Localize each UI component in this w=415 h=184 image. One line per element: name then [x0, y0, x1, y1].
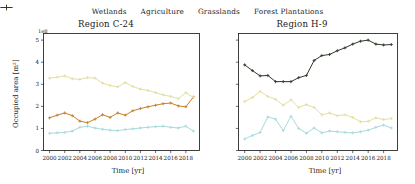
y-tick-label: 0	[35, 148, 39, 154]
series-wetlands	[48, 125, 195, 135]
data-point-marker	[162, 125, 165, 128]
x-tick-label: 2006	[88, 155, 103, 161]
data-point-marker	[139, 107, 142, 110]
data-point-marker	[86, 76, 89, 79]
data-point-marker	[139, 88, 142, 91]
x-tick-label: 2012	[133, 155, 148, 161]
series-forest-plantations	[243, 39, 393, 84]
data-point-marker	[48, 132, 51, 135]
data-point-marker	[56, 114, 59, 117]
x-tick-label: 2002	[253, 155, 268, 161]
data-point-marker	[56, 76, 59, 79]
data-point-marker	[359, 130, 362, 133]
x-tick-label: 2004	[73, 155, 88, 161]
data-point-marker	[336, 114, 339, 117]
x-tick-label: 2006	[284, 155, 299, 161]
data-point-marker	[177, 104, 180, 107]
data-point-marker	[177, 126, 180, 129]
data-point-marker	[351, 131, 354, 134]
data-point-marker	[305, 103, 308, 106]
panel-right: 2000200220042006200820102012201420162018	[236, 34, 398, 162]
data-point-marker	[382, 124, 385, 127]
data-point-marker	[139, 126, 142, 129]
data-point-marker	[48, 77, 51, 80]
series-grasslands	[48, 74, 195, 100]
y-tick-label: 2	[35, 103, 39, 109]
data-point-marker	[169, 95, 172, 98]
data-point-marker	[154, 91, 157, 94]
data-point-marker	[344, 113, 347, 116]
data-point-marker	[374, 116, 377, 119]
data-point-marker	[131, 127, 134, 130]
data-point-marker	[328, 130, 331, 133]
plot-frame	[239, 34, 398, 151]
data-point-marker	[344, 131, 347, 134]
data-point-marker	[116, 129, 119, 132]
data-point-marker	[169, 102, 172, 105]
data-point-marker	[390, 117, 393, 120]
series-line	[245, 116, 392, 139]
data-point-marker	[109, 84, 112, 87]
data-point-marker	[71, 77, 74, 80]
data-point-marker	[328, 111, 331, 114]
x-tick-label: 2000	[238, 155, 253, 161]
x-tick-label: 2016	[361, 155, 376, 161]
data-point-marker	[390, 126, 393, 129]
data-point-marker	[359, 40, 362, 43]
data-point-marker	[78, 78, 81, 81]
y-tick-label: 1	[35, 125, 39, 131]
data-point-marker	[154, 104, 157, 107]
x-tick-label: 2018	[376, 155, 391, 161]
x-tick-label: 2002	[58, 155, 73, 161]
x-tick-label: 2008	[299, 155, 314, 161]
data-point-marker	[251, 134, 254, 137]
data-point-marker	[86, 125, 89, 128]
x-tick-label: 2000	[42, 155, 57, 161]
data-point-marker	[63, 131, 66, 134]
data-point-marker	[147, 126, 150, 129]
data-point-marker	[124, 128, 127, 131]
data-point-marker	[382, 118, 385, 121]
data-point-marker	[48, 116, 51, 119]
x-tick-label: 2008	[103, 155, 118, 161]
data-point-marker	[243, 138, 246, 141]
x-tick-label: 2014	[148, 155, 163, 161]
x-tick-label: 2012	[330, 155, 345, 161]
x-tick-label: 2016	[164, 155, 179, 161]
data-point-marker	[390, 43, 393, 46]
plot-frame	[44, 34, 200, 151]
x-tick-label: 2004	[268, 155, 283, 161]
data-point-marker	[162, 93, 165, 96]
x-tick-label: 2014	[346, 155, 361, 161]
data-point-marker	[374, 126, 377, 129]
data-point-marker	[63, 74, 66, 77]
data-point-marker	[367, 120, 370, 123]
data-point-marker	[336, 130, 339, 133]
y-tick-label: 4	[35, 59, 39, 65]
x-tick-label: 2010	[118, 155, 133, 161]
data-point-marker	[109, 129, 112, 132]
data-point-marker	[154, 125, 157, 128]
series-line	[50, 97, 194, 123]
y-tick-label: 5	[35, 37, 39, 43]
data-point-marker	[147, 105, 150, 108]
x-tick-label: 2018	[179, 155, 194, 161]
x-tick-label: 2010	[315, 155, 330, 161]
data-point-marker	[63, 111, 66, 114]
series-grasslands	[243, 90, 393, 123]
y-tick-label: 3	[35, 81, 39, 87]
panel-left: 0123452000200220042006200820102012201420…	[35, 34, 199, 162]
data-point-marker	[162, 102, 165, 105]
data-point-marker	[147, 89, 150, 92]
data-point-marker	[93, 126, 96, 129]
data-point-marker	[169, 126, 172, 129]
data-point-marker	[282, 80, 285, 83]
figure-root: WetlandsAgricultureGrasslandsForest Plan…	[0, 0, 415, 184]
data-point-marker	[101, 128, 104, 131]
series-wetlands	[243, 115, 393, 141]
series-line	[50, 76, 194, 99]
data-point-marker	[86, 121, 89, 124]
series-agriculture	[48, 96, 195, 125]
data-point-marker	[367, 129, 370, 132]
plot-canvas: 0123452000200220042006200820102012201420…	[0, 0, 415, 184]
